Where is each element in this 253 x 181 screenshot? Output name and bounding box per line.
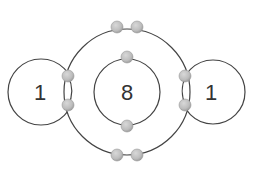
electron-icon bbox=[131, 149, 143, 161]
electron-icon bbox=[62, 70, 74, 82]
electron-icon bbox=[121, 120, 133, 132]
electron-icon bbox=[179, 70, 191, 82]
electron-icon bbox=[121, 51, 133, 63]
electron-icon bbox=[131, 21, 143, 33]
electron-icon bbox=[111, 21, 123, 33]
electron-icon bbox=[111, 149, 123, 161]
electron-icon bbox=[62, 99, 74, 111]
electron-icon bbox=[179, 99, 191, 111]
hydrogen-left-label: 1 bbox=[34, 80, 46, 105]
oxygen-label: 8 bbox=[121, 80, 133, 105]
hydrogen-right-label: 1 bbox=[205, 80, 217, 105]
water-molecule-diagram: 1 8 1 bbox=[0, 0, 253, 181]
